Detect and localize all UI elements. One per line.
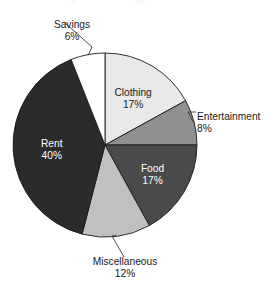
pie-chart: Clothing17%Entertainment8%Food17%Miscell… [0,0,268,288]
pie-label-savings: 6% [65,31,80,42]
pie-label-food: Food [141,163,165,174]
pie-label-clothing: Clothing [114,87,152,98]
pie-label-clothing: 17% [123,99,143,110]
pie-label-miscellaneous: Miscellaneous [93,256,158,267]
pie-label-rent: 40% [42,150,62,161]
pie-label-entertainment: 8% [197,123,212,134]
pie-label-miscellaneous: 12% [115,268,135,279]
pie-label-savings: Savings [54,19,90,30]
pie-label-entertainment: Entertainment [197,111,261,122]
pie-label-rent: Rent [41,138,63,149]
pie-label-food: 17% [142,175,162,186]
pie-chart-canvas: Clothing17%Entertainment8%Food17%Miscell… [0,0,268,288]
leader-line-miscellaneous [112,235,124,257]
